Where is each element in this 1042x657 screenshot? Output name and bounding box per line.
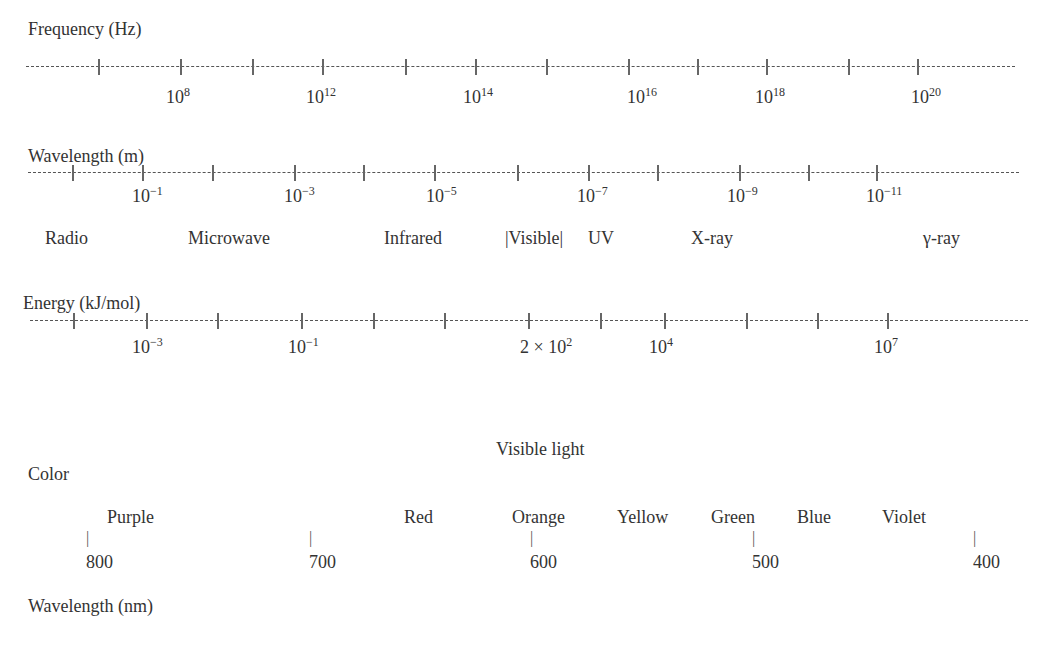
region-label: X-ray bbox=[691, 228, 733, 249]
tick-mark bbox=[917, 59, 919, 75]
tick-mark bbox=[766, 59, 768, 75]
tick-mark bbox=[373, 313, 375, 329]
region-label: |Visible| bbox=[505, 228, 563, 249]
tick-label: 10−9 bbox=[727, 186, 758, 207]
tick-label: 1020 bbox=[911, 87, 941, 108]
frequency-scale bbox=[0, 57, 1042, 77]
tick-label: 1016 bbox=[627, 87, 657, 108]
tick-mark bbox=[146, 313, 148, 329]
wavelength-tick: | bbox=[86, 529, 89, 547]
wavelength-value: 400 bbox=[973, 552, 1000, 573]
tick-mark bbox=[697, 59, 699, 75]
tick-mark bbox=[212, 165, 214, 181]
region-label: UV bbox=[588, 228, 614, 249]
color-label: Color bbox=[28, 464, 69, 485]
energy-scale bbox=[0, 311, 1042, 331]
tick-label: 1012 bbox=[306, 87, 336, 108]
tick-mark bbox=[546, 59, 548, 75]
tick-label: 2 × 102 bbox=[520, 337, 572, 358]
color-name: Purple bbox=[107, 507, 154, 528]
visible-light-title: Visible light bbox=[496, 439, 584, 460]
wavelength-nm-label: Wavelength (nm) bbox=[28, 596, 153, 617]
tick-mark bbox=[664, 313, 666, 329]
tick-mark bbox=[475, 59, 477, 75]
tick-label: 1014 bbox=[463, 87, 493, 108]
tick-mark bbox=[848, 59, 850, 75]
wavelength-m-scale bbox=[0, 163, 1042, 183]
region-label: Radio bbox=[45, 228, 88, 249]
tick-mark bbox=[322, 59, 324, 75]
wavelength-tick: | bbox=[309, 529, 312, 547]
region-label: Microwave bbox=[188, 228, 270, 249]
tick-mark bbox=[73, 313, 75, 329]
wavelength-tick: | bbox=[530, 529, 533, 547]
color-name: Blue bbox=[797, 507, 831, 528]
region-label: γ-ray bbox=[923, 228, 960, 249]
tick-mark bbox=[808, 165, 810, 181]
color-name: Violet bbox=[882, 507, 926, 528]
tick-label: 10−3 bbox=[284, 186, 315, 207]
wavelength-tick: | bbox=[973, 529, 976, 547]
tick-label: 107 bbox=[874, 337, 898, 358]
tick-mark bbox=[444, 313, 446, 329]
color-name: Orange bbox=[512, 507, 565, 528]
tick-label: 10−3 bbox=[132, 337, 163, 358]
tick-label: 10−1 bbox=[288, 337, 319, 358]
tick-mark bbox=[657, 165, 659, 181]
tick-mark bbox=[98, 59, 100, 75]
tick-mark bbox=[180, 59, 182, 75]
color-name: Yellow bbox=[617, 507, 668, 528]
tick-mark bbox=[363, 165, 365, 181]
tick-mark bbox=[628, 59, 630, 75]
tick-mark bbox=[405, 59, 407, 75]
wavelength-value: 800 bbox=[86, 552, 113, 573]
tick-mark bbox=[294, 165, 296, 181]
color-name: Green bbox=[711, 507, 755, 528]
tick-mark bbox=[142, 165, 144, 181]
tick-label: 10−7 bbox=[577, 186, 608, 207]
tick-mark bbox=[746, 313, 748, 329]
tick-mark bbox=[739, 165, 741, 181]
tick-mark bbox=[301, 313, 303, 329]
tick-mark bbox=[817, 313, 819, 329]
axis-line bbox=[26, 66, 1015, 67]
tick-label: 10−1 bbox=[132, 186, 163, 207]
wavelength-value: 600 bbox=[530, 552, 557, 573]
wavelength-value: 500 bbox=[752, 552, 779, 573]
tick-label: 10−11 bbox=[866, 186, 902, 207]
axis-line bbox=[28, 172, 1019, 173]
tick-label: 10−5 bbox=[426, 186, 457, 207]
tick-mark bbox=[887, 313, 889, 329]
tick-mark bbox=[528, 313, 530, 329]
color-name: Red bbox=[404, 507, 433, 528]
tick-mark bbox=[876, 165, 878, 181]
wavelength-tick: | bbox=[752, 529, 755, 547]
tick-mark bbox=[252, 59, 254, 75]
tick-label: 1018 bbox=[755, 87, 785, 108]
tick-label: 104 bbox=[649, 337, 673, 358]
tick-mark bbox=[217, 313, 219, 329]
tick-mark bbox=[588, 165, 590, 181]
wavelength-value: 700 bbox=[309, 552, 336, 573]
tick-mark bbox=[517, 165, 519, 181]
tick-label: 108 bbox=[166, 87, 190, 108]
tick-mark bbox=[72, 165, 74, 181]
tick-mark bbox=[434, 165, 436, 181]
tick-mark bbox=[600, 313, 602, 329]
frequency-title: Frequency (Hz) bbox=[28, 19, 141, 40]
region-label: Infrared bbox=[384, 228, 442, 249]
